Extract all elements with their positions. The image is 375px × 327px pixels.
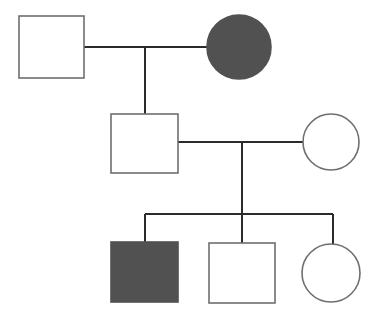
generation-3-female-unaffected[interactable] <box>302 244 360 302</box>
generation-2-group <box>111 114 359 214</box>
generation-2-female-unaffected[interactable] <box>303 114 359 170</box>
pedigree-canvas <box>0 0 375 327</box>
generation-3-male-unaffected[interactable] <box>209 243 275 303</box>
generation-1-group <box>19 15 271 114</box>
generation-1-female-affected[interactable] <box>207 15 271 79</box>
generation-1-male-unaffected[interactable] <box>19 16 84 78</box>
generation-3-group <box>111 214 360 303</box>
generation-3-male-affected[interactable] <box>111 242 178 302</box>
generation-2-male-unaffected[interactable] <box>111 114 178 173</box>
pedigree-diagram <box>0 0 375 327</box>
